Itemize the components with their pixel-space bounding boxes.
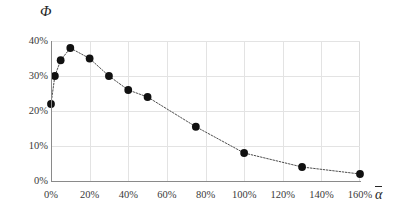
y-axis-tick-label: 30%: [2, 71, 48, 82]
y-axis-tick-label: 0%: [2, 176, 48, 187]
data-point: [51, 72, 59, 80]
x-axis-tick-label: 60%: [145, 190, 189, 201]
x-axis-tick-label: 40%: [106, 190, 150, 201]
y-axis-tick-labels: 0%10%20%30%40%: [0, 0, 48, 222]
data-series: [51, 41, 360, 181]
data-point: [192, 123, 200, 131]
plot-area: [51, 41, 360, 181]
data-point: [298, 163, 306, 171]
x-axis-tick-label: 20%: [68, 190, 112, 201]
chart-figure: Φ 0%10%20%30%40% 0%20%40%60%80%100%120%1…: [0, 0, 407, 222]
data-point: [66, 44, 74, 52]
data-point: [86, 55, 94, 63]
y-axis-tick-label: 40%: [2, 36, 48, 47]
data-point: [144, 93, 152, 101]
x-axis-line: [51, 181, 361, 182]
data-point: [124, 86, 132, 94]
data-point: [105, 72, 113, 80]
x-axis-tick-label: 120%: [261, 190, 305, 201]
x-axis-tick-label: 80%: [184, 190, 228, 201]
x-axis-title: α: [375, 186, 382, 202]
data-point: [356, 170, 364, 178]
x-axis-tick-label: 140%: [299, 190, 343, 201]
y-axis-tick-label: 10%: [2, 141, 48, 152]
y-axis-line: [51, 41, 52, 182]
series-markers: [47, 44, 364, 178]
data-point: [57, 56, 65, 64]
x-axis-tick-label: 0%: [29, 190, 73, 201]
y-axis-tick-label: 20%: [2, 106, 48, 117]
series-line: [51, 48, 360, 174]
data-point: [240, 149, 248, 157]
x-axis-title-text: α: [375, 186, 382, 202]
x-axis-tick-label: 100%: [222, 190, 266, 201]
